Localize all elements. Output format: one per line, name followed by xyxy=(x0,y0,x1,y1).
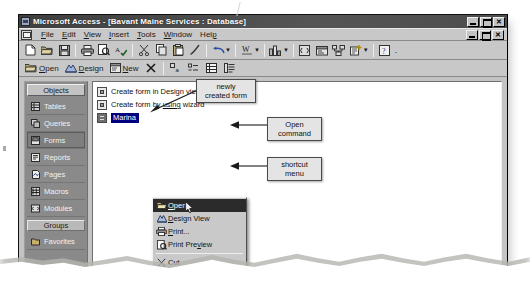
sidebar-item-queries[interactable]: Queries xyxy=(27,115,85,132)
forms-icon xyxy=(31,136,40,145)
sidebar-item-pages[interactable]: Pages xyxy=(27,166,85,183)
toolbar-overflow-handle[interactable]: . xyxy=(395,45,398,55)
sidebar-item-tables[interactable]: Tables xyxy=(27,98,85,115)
callout-open-command: Open command xyxy=(267,117,322,141)
window-title: Microsoft Access - [Bavant Maine Service… xyxy=(33,17,467,26)
relationships-icon[interactable] xyxy=(331,43,347,58)
office-links-icon[interactable]: W xyxy=(239,43,255,58)
standard-toolbar: A ▼ W ▼ xyxy=(19,41,507,60)
callout-newly-created-form: newly created form xyxy=(196,79,256,103)
sidebar-item-favorites[interactable]: Favorites xyxy=(27,233,85,250)
menu-insert[interactable]: Insert xyxy=(105,30,133,39)
print-preview-icon xyxy=(155,240,168,250)
list-item-create-form-wizard[interactable]: Create form by using wizard xyxy=(96,98,501,111)
open-folder-icon xyxy=(25,63,37,73)
delete-x-icon[interactable] xyxy=(143,61,159,76)
callout-shortcut-menu: shortcut menu xyxy=(267,157,322,181)
objects-header: Objects xyxy=(27,84,85,96)
macros-icon xyxy=(31,187,40,196)
details-view-icon[interactable] xyxy=(222,61,238,76)
save-disk-icon[interactable] xyxy=(56,43,72,58)
toolbar-separator xyxy=(163,62,164,75)
new-object-icon xyxy=(110,63,121,73)
cut-scissors-icon[interactable] xyxy=(136,43,152,58)
db-open-label: pen xyxy=(45,64,58,73)
toolbar-separator xyxy=(264,44,265,57)
list-item-label: Create form in Design view xyxy=(111,87,201,96)
toolbar-separator xyxy=(235,44,236,57)
toolbar-separator xyxy=(75,44,76,57)
sidebar-item-label: Favorites xyxy=(44,237,75,246)
db-design-label: esign xyxy=(84,64,103,73)
list-item-create-form-design[interactable]: Create form in Design view xyxy=(96,85,501,98)
large-icons-icon[interactable]: a xyxy=(168,61,184,76)
db-open-button[interactable]: Open xyxy=(23,62,61,74)
toolbar-separator xyxy=(373,44,374,57)
sidebar-item-label: Tables xyxy=(44,102,66,111)
favorites-folder-icon xyxy=(31,237,40,246)
menu-item-open[interactable]: Open xyxy=(153,199,246,212)
sidebar-item-label: Pages xyxy=(44,170,65,179)
print-preview-icon[interactable] xyxy=(96,43,112,58)
close-button[interactable]: ✕ xyxy=(493,17,505,27)
sidebar-item-label: Macros xyxy=(44,187,69,196)
menu-item-label: Print Preview xyxy=(168,240,212,249)
menu-edit[interactable]: Edit xyxy=(58,30,80,39)
design-ruler-icon xyxy=(155,214,168,223)
print-icon[interactable] xyxy=(79,43,95,58)
svg-text:?: ? xyxy=(382,46,386,55)
restore-button[interactable] xyxy=(480,17,492,27)
new-object-icon[interactable] xyxy=(348,43,364,58)
reports-icon xyxy=(31,153,40,162)
access-icon xyxy=(21,17,30,26)
menu-bar: File Edit View Insert Tools Window Help … xyxy=(19,28,507,41)
objects-list: Tables Queries Forms xyxy=(27,98,85,217)
document-close-button[interactable]: ✕ xyxy=(492,30,504,40)
sidebar-item-modules[interactable]: Modules xyxy=(27,200,85,217)
minimize-button[interactable] xyxy=(467,17,479,27)
form-object-icon xyxy=(97,113,107,123)
pages-icon xyxy=(31,170,40,179)
menu-item-design-view[interactable]: Design View xyxy=(153,212,246,225)
toolbar-separator xyxy=(293,44,294,57)
menu-view[interactable]: View xyxy=(80,30,105,39)
database-window-toolbar: Open Design New a xyxy=(19,60,507,77)
title-bar: Microsoft Access - [Bavant Maine Service… xyxy=(19,15,507,28)
sidebar-item-macros[interactable]: Macros xyxy=(27,183,85,200)
format-painter-icon[interactable] xyxy=(187,43,203,58)
db-design-button[interactable]: Design xyxy=(63,62,106,74)
window-controls: ✕ xyxy=(467,17,505,27)
help-question-icon[interactable]: ? xyxy=(377,43,393,58)
menu-item-print[interactable]: Print... xyxy=(153,225,246,238)
database-document-icon[interactable] xyxy=(21,30,32,40)
menu-item-label: Design View xyxy=(168,214,210,223)
menu-tools[interactable]: Tools xyxy=(133,30,160,39)
undo-icon[interactable] xyxy=(210,43,226,58)
code-icon[interactable] xyxy=(297,43,313,58)
sidebar-item-reports[interactable]: Reports xyxy=(27,149,85,166)
document-minimize-button[interactable] xyxy=(466,30,478,40)
small-icons-icon[interactable] xyxy=(186,61,202,76)
menu-window[interactable]: Window xyxy=(160,30,196,39)
menu-help[interactable]: Help xyxy=(196,30,220,39)
db-new-button[interactable]: New xyxy=(108,62,141,74)
document-restore-button[interactable] xyxy=(479,30,491,40)
open-folder-icon[interactable] xyxy=(39,43,55,58)
tables-icon xyxy=(31,102,40,111)
sidebar-item-label: Forms xyxy=(44,136,65,145)
spelling-icon[interactable]: A xyxy=(113,43,129,58)
properties-icon[interactable] xyxy=(314,43,330,58)
menu-file[interactable]: File xyxy=(37,30,58,39)
new-icon[interactable] xyxy=(22,43,38,58)
list-view-icon[interactable] xyxy=(204,61,220,76)
access-application-window: Microsoft Access - [Bavant Maine Service… xyxy=(18,14,508,269)
menu-item-label: Open xyxy=(168,201,186,210)
print-icon xyxy=(155,227,168,236)
sidebar-item-forms[interactable]: Forms xyxy=(27,132,85,149)
analyze-icon[interactable] xyxy=(268,43,284,58)
paste-icon[interactable] xyxy=(170,43,186,58)
sidebar-item-label: Queries xyxy=(44,119,70,128)
svg-text:a: a xyxy=(176,67,180,73)
menu-item-print-preview[interactable]: Print Preview xyxy=(153,238,246,251)
copy-icon[interactable] xyxy=(153,43,169,58)
